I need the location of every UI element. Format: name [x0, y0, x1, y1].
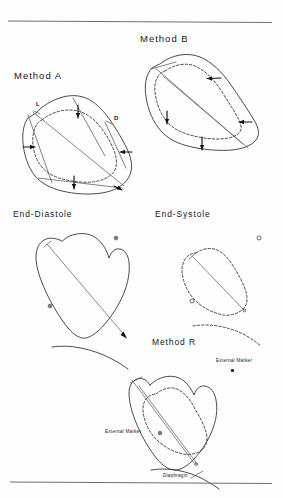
- method-r-marker-upper: [231, 369, 234, 372]
- method-b-arrow-left: [165, 111, 169, 124]
- end-diastole-marker-upper: [114, 236, 118, 240]
- method-r-drawing: [129, 369, 234, 489]
- method-r-external-marker-label-upper: External Marker: [216, 358, 252, 363]
- method-a-arrow-right: [120, 150, 132, 154]
- end-diastole-long-axis: [47, 244, 126, 337]
- end-systole-marker-upper: [257, 236, 261, 240]
- method-r-marker-lower: [158, 431, 162, 435]
- method-b-arrow-right: [239, 120, 252, 124]
- method-r-diaphragm: [151, 469, 219, 489]
- end-systole-long-axis: [192, 256, 244, 310]
- method-r-diaphragm-label: Diaphragm: [163, 473, 188, 478]
- end-diastole-diaphragm: [52, 346, 128, 369]
- method-r-long-axis-systolic: [139, 386, 198, 465]
- method-a-base-line: [38, 178, 122, 188]
- method-a-drawing: [23, 96, 132, 194]
- method-b-short-axis: [151, 62, 176, 69]
- end-systole-apex-point: [243, 309, 246, 312]
- method-b-inner-contour: [155, 64, 241, 139]
- method-b-drawing: [145, 54, 258, 150]
- end-systole-marker-lower: [190, 299, 194, 303]
- end-systole-contour: [182, 249, 247, 316]
- end-diastole-axis-arrowhead: [121, 332, 128, 339]
- method-b-title: Method B: [140, 33, 189, 44]
- end-diastole-marker-lower: [48, 304, 52, 308]
- method-a-long-axis-label: L: [36, 101, 40, 107]
- method-a-grid-line-1: [28, 115, 52, 183]
- method-r-external-marker-label-lower: External Marker: [105, 429, 141, 434]
- method-a-title: Method A: [14, 70, 62, 81]
- end-diastole-title: End-Diastole: [13, 209, 72, 219]
- method-b-arrow-bottom: [200, 137, 204, 150]
- method-r-title: Method R: [152, 337, 196, 347]
- end-systole-diaphragm: [193, 325, 261, 346]
- method-b-long-axis-secondary: [163, 76, 248, 148]
- method-r-dashed-contour: [143, 388, 207, 454]
- end-systole-drawing: [182, 236, 261, 346]
- bottom-horizontal-rule: [10, 482, 272, 484]
- end-diastole-drawing: [36, 234, 129, 370]
- method-b-outer-contour: [145, 54, 258, 150]
- figure-page: Method B Method A L D End-Diastole End-S…: [0, 0, 283, 498]
- method-r-long-axis-diastolic: [132, 380, 194, 463]
- method-b-arrow-upper-right: [207, 76, 221, 80]
- method-a-diameter-label: D: [114, 115, 119, 121]
- end-systole-title: End-Systole: [155, 209, 211, 219]
- end-diastole-axis-tick: [44, 241, 51, 247]
- top-horizontal-rule: [8, 21, 272, 23]
